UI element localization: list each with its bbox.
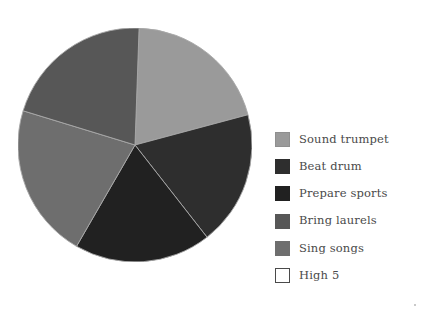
- legend-swatch-icon: [275, 132, 290, 147]
- legend-item-label: Prepare sports: [299, 188, 388, 200]
- legend-item-label: Sound trumpet: [299, 134, 389, 146]
- legend-swatch-icon: [275, 268, 290, 283]
- legend-swatch-icon: [275, 241, 290, 256]
- pie-slice-group: [18, 28, 252, 262]
- legend-item[interactable]: Beat drum: [275, 153, 415, 180]
- pie-chart-plot-area: [18, 28, 252, 262]
- legend-item[interactable]: Sound trumpet: [275, 126, 415, 153]
- pie-svg: [18, 28, 252, 262]
- legend-item[interactable]: Prepare sports: [275, 180, 415, 207]
- legend-item[interactable]: High 5: [275, 262, 415, 289]
- legend-item-label: High 5: [299, 270, 339, 282]
- legend-item-label: Sing songs: [299, 243, 364, 255]
- pie-chart-figure: Sound trumpetBeat drumPrepare sportsBrin…: [0, 0, 422, 313]
- legend-swatch-icon: [275, 214, 290, 229]
- chart-legend: Sound trumpetBeat drumPrepare sportsBrin…: [275, 126, 415, 289]
- legend-swatch-icon: [275, 186, 290, 201]
- legend-item-label: Bring laurels: [299, 215, 377, 227]
- legend-swatch-icon: [275, 159, 290, 174]
- legend-item[interactable]: Sing songs: [275, 235, 415, 262]
- legend-item-label: Beat drum: [299, 161, 362, 173]
- legend-item[interactable]: Bring laurels: [275, 208, 415, 235]
- corner-speck: [414, 304, 416, 306]
